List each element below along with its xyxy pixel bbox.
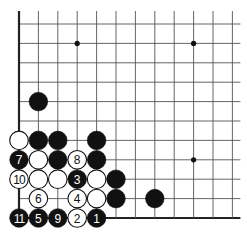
move-number: 7: [16, 153, 23, 167]
black-stone[interactable]: [29, 92, 48, 111]
move-number: 5: [35, 212, 42, 226]
white-stone-move-8[interactable]: 8: [68, 151, 87, 170]
move-number: 4: [74, 192, 81, 206]
black-stone-move-5[interactable]: 5: [29, 209, 48, 228]
move-number: 10: [13, 173, 26, 187]
white-stone-move-6[interactable]: 6: [29, 189, 48, 208]
black-stone-move-11[interactable]: 11: [10, 209, 29, 228]
white-stone[interactable]: [49, 170, 68, 189]
white-stone-move-4[interactable]: 4: [68, 189, 87, 208]
move-number: 6: [35, 192, 42, 206]
black-stone-move-3[interactable]: 3: [68, 170, 87, 189]
move-number: 9: [54, 212, 61, 226]
star-point: [75, 41, 80, 46]
white-stone[interactable]: [87, 170, 106, 189]
black-stone[interactable]: [107, 170, 126, 189]
white-stone[interactable]: [10, 131, 29, 150]
black-stone[interactable]: [146, 189, 165, 208]
white-stone-move-10[interactable]: 10: [10, 170, 29, 189]
star-point: [191, 41, 196, 46]
star-point: [191, 157, 196, 162]
black-stone[interactable]: [49, 151, 68, 170]
go-board[interactable]: 7810364115921: [0, 0, 247, 241]
black-stone[interactable]: [49, 131, 68, 150]
black-stone-move-7[interactable]: 7: [10, 151, 29, 170]
white-stone[interactable]: [87, 189, 106, 208]
black-stone[interactable]: [87, 151, 106, 170]
white-stone[interactable]: [29, 170, 48, 189]
move-number: 8: [74, 153, 81, 167]
move-number: 11: [14, 212, 26, 226]
white-stone-move-2[interactable]: 2: [68, 209, 87, 228]
black-stone-move-1[interactable]: 1: [87, 209, 106, 228]
black-stone-move-9[interactable]: 9: [49, 209, 68, 228]
black-stone[interactable]: [29, 131, 48, 150]
black-stone[interactable]: [107, 189, 126, 208]
move-number: 3: [74, 173, 81, 187]
white-stone[interactable]: [29, 151, 48, 170]
move-number: 2: [74, 212, 81, 226]
move-number: 1: [93, 212, 100, 226]
black-stone[interactable]: [87, 131, 106, 150]
